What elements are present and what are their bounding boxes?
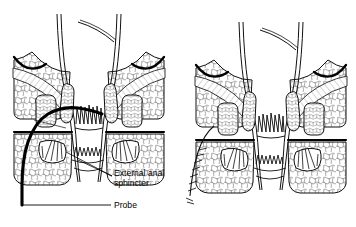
external-anal-sphincter-label-line2: sphincter <box>114 178 149 188</box>
figure-canvas: External anal sphincter Probe <box>0 0 356 227</box>
anal-sphincter-figure: External anal sphincter Probe <box>0 0 356 227</box>
external-anal-sphincter-label-line1: External anal <box>114 168 164 178</box>
probe-label: Probe <box>114 200 137 210</box>
